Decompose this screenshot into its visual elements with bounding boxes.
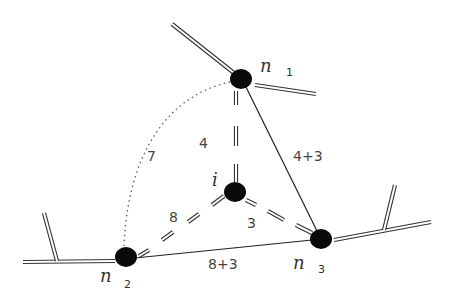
node-label-n1: n: [260, 55, 272, 76]
node-sub-n3: 3: [318, 263, 325, 276]
node-n3: [310, 229, 332, 249]
edge-label-i-n3: 3: [247, 215, 256, 231]
node-label-n2: n: [100, 265, 112, 286]
node-i: [224, 182, 246, 202]
edge-label-n1-n2: 7: [147, 148, 156, 164]
node-n1: [230, 69, 252, 89]
node-sub-n2: 2: [124, 278, 131, 291]
edge-label-n1-i: 4: [199, 135, 208, 151]
node-sub-n1: 1: [286, 66, 293, 79]
edge-label-n1-n3: 4+3: [293, 148, 323, 164]
node-label-n3: n: [293, 252, 305, 273]
edge-i-n2-dashed: [139, 196, 224, 256]
node-n2: [115, 247, 137, 267]
edge-label-n2-n3: 8+3: [208, 256, 238, 272]
edge-label-i-n2: 8: [169, 209, 178, 225]
node-label-i: i: [212, 169, 218, 190]
branches-n3: [334, 185, 431, 240]
graph-diagram: n 1 n 2 n 3 i 4 4+3 7 8 3 8+3: [0, 0, 450, 303]
branches-n2: [23, 213, 115, 262]
